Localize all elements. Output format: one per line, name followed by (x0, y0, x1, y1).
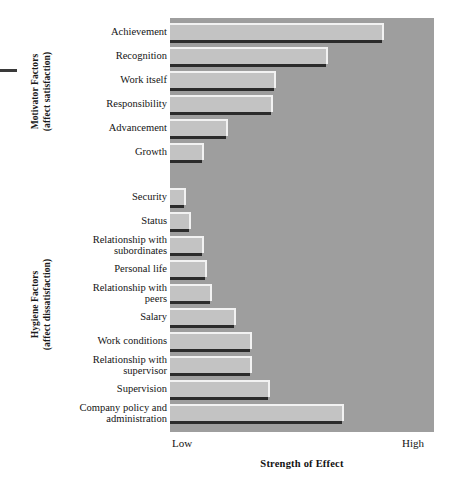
group-label-hygiene-subtitle: (affect dissatisfaction) (41, 188, 53, 421)
category-label: Supervision (52, 383, 167, 395)
bar-shadow (170, 112, 271, 115)
bar-row (170, 119, 434, 143)
bar-shadow (170, 205, 184, 208)
bar-shadow (170, 397, 268, 400)
bar (170, 188, 186, 205)
bar-shadow (170, 373, 250, 376)
category-label: Relationship with peers (52, 282, 167, 305)
bar-row (170, 236, 434, 260)
bar-shadow (170, 160, 202, 163)
bar (170, 71, 276, 88)
bar-row (170, 356, 434, 380)
herzberg-two-factor-chart: Motivator Factors (affect satisfaction) … (0, 0, 464, 492)
bar (170, 236, 204, 253)
bar (170, 119, 228, 136)
bar-shadow (170, 301, 210, 304)
category-label: Security (52, 191, 167, 203)
bar (170, 356, 252, 373)
category-label: Growth (52, 146, 167, 158)
bar-shadow (170, 349, 250, 352)
bar-shadow (170, 229, 189, 232)
bar-row (170, 188, 434, 212)
bar-shadow (170, 325, 234, 328)
category-label: Responsibility (52, 98, 167, 110)
group-label-motivator-factors: Motivator Factors (affect satisfaction) (30, 23, 53, 160)
bar-row (170, 23, 434, 47)
bar-row (170, 47, 434, 71)
bar (170, 212, 191, 229)
group-label-hygiene-title: Hygiene Factors (30, 188, 42, 421)
group-label-hygiene-factors: Hygiene Factors (affect dissatisfaction) (30, 188, 53, 421)
group-label-motivator-title: Motivator Factors (30, 23, 42, 160)
bar-shadow (170, 88, 274, 91)
category-label: Salary (52, 311, 167, 323)
bar (170, 404, 344, 421)
bar-shadow (170, 64, 326, 67)
category-label: Achievement (52, 26, 167, 38)
bar (170, 332, 252, 349)
category-label-column: AchievementRecognitionWork itselfRespons… (52, 18, 167, 432)
bar (170, 284, 212, 301)
category-label: Work conditions (52, 335, 167, 347)
bar-row (170, 260, 434, 284)
bar-row (170, 284, 434, 308)
bar-row (170, 212, 434, 236)
bar-shadow (170, 277, 205, 280)
category-label: Company policy and administration (52, 402, 167, 425)
bar-row (170, 404, 434, 428)
bar (170, 47, 328, 64)
category-label: Personal life (52, 263, 167, 275)
bar-shadow (170, 253, 202, 256)
bar-shadow (170, 421, 342, 424)
bar-row (170, 380, 434, 404)
bar (170, 143, 204, 160)
category-label: Status (52, 215, 167, 227)
bar-shadow (170, 40, 382, 43)
x-axis-title: Strength of Effect (170, 458, 434, 469)
margin-dash-mark (0, 69, 17, 72)
bar (170, 95, 273, 112)
bar-row (170, 143, 434, 167)
plot-area (170, 18, 434, 432)
bar (170, 308, 236, 325)
bar-shadow (170, 136, 226, 139)
category-label: Advancement (52, 122, 167, 134)
bar-row (170, 332, 434, 356)
bar (170, 380, 270, 397)
bar-row (170, 71, 434, 95)
axis-tick-low: Low (172, 437, 192, 449)
bar-row (170, 308, 434, 332)
bar-row (170, 95, 434, 119)
category-label: Relationship with supervisor (52, 354, 167, 377)
bar (170, 23, 384, 40)
category-label: Relationship with subordinates (52, 234, 167, 257)
group-label-motivator-subtitle: (affect satisfaction) (41, 23, 53, 160)
bar (170, 260, 207, 277)
axis-tick-high: High (402, 437, 424, 449)
category-label: Work itself (52, 74, 167, 86)
category-label: Recognition (52, 50, 167, 62)
